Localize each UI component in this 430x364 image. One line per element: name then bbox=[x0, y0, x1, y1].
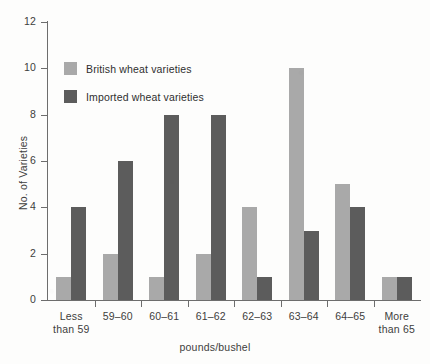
x-tick-mark bbox=[234, 301, 235, 307]
x-axis-title: pounds/bushel bbox=[0, 341, 430, 353]
legend-swatch-icon-imported bbox=[64, 90, 77, 103]
bar-chart: 024681012 No. of Varieties pounds/bushel… bbox=[0, 0, 430, 364]
bar-british bbox=[242, 207, 257, 300]
y-tick-label: 12 bbox=[6, 15, 36, 27]
x-category-label: Morethan 65 bbox=[367, 310, 427, 336]
bar-british bbox=[56, 277, 71, 300]
y-tick-label: 2 bbox=[6, 247, 36, 259]
y-tick-mark bbox=[41, 161, 47, 162]
bar-british bbox=[196, 254, 211, 300]
bar-imported bbox=[71, 207, 86, 300]
legend-entry-imported: Imported wheat varieties bbox=[64, 87, 204, 106]
x-tick-mark bbox=[374, 301, 375, 307]
y-axis-title: No. of Varieties bbox=[17, 136, 29, 210]
y-tick-mark bbox=[41, 300, 47, 301]
x-tick-mark bbox=[188, 301, 189, 307]
bar-imported bbox=[397, 277, 412, 300]
bar-british bbox=[335, 184, 350, 300]
bar-imported bbox=[350, 207, 365, 300]
y-tick-mark bbox=[41, 115, 47, 116]
y-tick-label: 0 bbox=[6, 293, 36, 305]
y-tick-mark bbox=[41, 22, 47, 23]
bar-imported bbox=[257, 277, 272, 300]
legend-label-imported: Imported wheat varieties bbox=[86, 91, 204, 103]
bar-imported bbox=[304, 231, 319, 301]
bar-british bbox=[103, 254, 118, 300]
legend-entry-british: British wheat varieties bbox=[64, 59, 204, 78]
bar-british bbox=[289, 68, 304, 300]
bar-imported bbox=[211, 115, 226, 300]
bar-imported bbox=[164, 115, 179, 300]
bar-british bbox=[382, 277, 397, 300]
y-tick-mark bbox=[41, 254, 47, 255]
chart-legend: British wheat varieties Imported wheat v… bbox=[64, 59, 204, 115]
bar-imported bbox=[118, 161, 133, 300]
bar-british bbox=[149, 277, 164, 300]
legend-label-british: British wheat varieties bbox=[86, 63, 192, 75]
x-tick-mark bbox=[141, 301, 142, 307]
legend-swatch-icon-british bbox=[64, 62, 77, 75]
y-tick-mark bbox=[41, 207, 47, 208]
x-tick-mark bbox=[281, 301, 282, 307]
x-tick-mark bbox=[95, 301, 96, 307]
y-tick-label: 8 bbox=[6, 108, 36, 120]
x-tick-mark bbox=[327, 301, 328, 307]
y-tick-mark bbox=[41, 68, 47, 69]
y-tick-label: 10 bbox=[6, 61, 36, 73]
